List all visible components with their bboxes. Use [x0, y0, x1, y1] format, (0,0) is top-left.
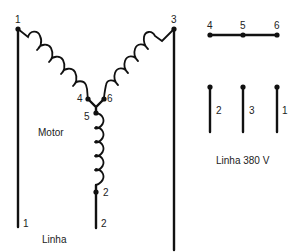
- block-5-label: 5: [240, 20, 246, 31]
- terminal-3-dot: [171, 26, 176, 31]
- lead-1-label: 1: [23, 218, 29, 229]
- terminal-2-label: 2: [103, 187, 109, 198]
- block-6-label: 6: [274, 20, 280, 31]
- terminal-3-label: 3: [171, 14, 177, 25]
- star-connection-diagram: 1 3 4 5 6 2 Motor 1 2 Linha 4 5 6 2 3 1 …: [0, 0, 293, 252]
- block-lead-2-dot: [207, 84, 212, 89]
- terminal-4-label: 4: [77, 93, 83, 104]
- block-5-dot: [240, 32, 245, 37]
- block-4-dot: [207, 32, 212, 37]
- block-lead-1-dot: [274, 84, 279, 89]
- coil-5-2: [95, 113, 103, 192]
- line-label: Linha: [42, 234, 67, 245]
- lead-2-label: 2: [101, 218, 107, 229]
- block-lead-3-dot: [240, 84, 245, 89]
- coil-1-4: [18, 29, 88, 99]
- terminal-6-label: 6: [107, 93, 113, 104]
- block-4-label: 4: [207, 20, 213, 31]
- motor-label: Motor: [38, 127, 64, 138]
- block-lead-3-label: 3: [249, 105, 255, 116]
- line-380v-caption: Linha 380 V: [216, 155, 270, 166]
- block-6-dot: [274, 32, 279, 37]
- block-lead-1-label: 1: [282, 105, 288, 116]
- terminal-4-dot: [85, 96, 90, 101]
- block-lead-2-label: 2: [216, 105, 222, 116]
- terminal-1-label: 1: [15, 14, 21, 25]
- terminal-5-label: 5: [84, 111, 90, 122]
- coil-3-6: [104, 29, 174, 99]
- terminal-6-dot: [101, 96, 106, 101]
